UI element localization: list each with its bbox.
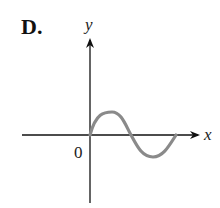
origin-label: 0 (74, 143, 83, 162)
y-axis-label: y (83, 15, 93, 34)
graph: y x 0 (0, 0, 220, 208)
x-axis-label: x (203, 125, 212, 144)
